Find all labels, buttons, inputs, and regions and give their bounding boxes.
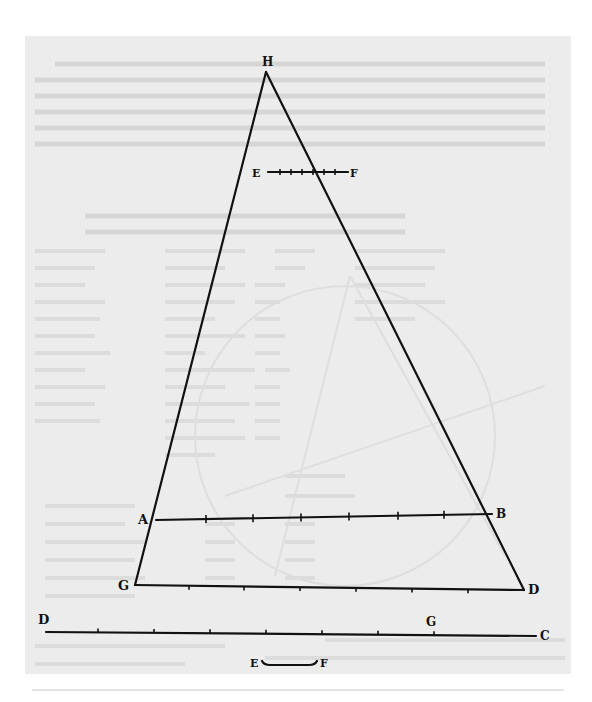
point-label-e: E xyxy=(252,167,260,180)
segment-gd xyxy=(135,585,524,590)
point-label-d: D xyxy=(528,582,539,597)
point-label-d: D xyxy=(38,612,49,627)
point-label-c: C xyxy=(540,629,550,643)
point-label-g: G xyxy=(426,615,436,629)
segment-ef-small xyxy=(262,661,317,665)
point-label-h: H xyxy=(262,55,273,69)
point-label-b: B xyxy=(496,507,506,521)
point-label-f: F xyxy=(320,657,328,670)
geometry-diagram: HEFABGDDGCEF xyxy=(0,0,592,702)
point-label-a: A xyxy=(137,512,149,527)
point-label-g: G xyxy=(118,578,129,593)
segment-hd xyxy=(266,72,524,590)
segment-hg xyxy=(135,72,266,585)
point-label-f: F xyxy=(350,167,358,180)
segment-dc xyxy=(46,632,536,636)
point-label-e: E xyxy=(250,657,258,670)
